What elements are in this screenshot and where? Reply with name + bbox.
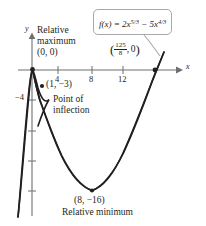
x-intercept-label: (1258,0) [110, 42, 140, 57]
inflection-point-label: (1, −3) [46, 80, 72, 90]
x-tick-label-12: 12 [118, 75, 127, 84]
intercept-fraction: 1258 [114, 42, 127, 57]
intercept-close-paren: ) [135, 42, 139, 57]
relative-maximum-point-label: (0, 0) [37, 48, 58, 58]
function-formula-callout: f(x) = 2x5/3 − 5x4/3 [93, 9, 172, 35]
inflection-label-line2: inflection [53, 106, 89, 116]
function-formula-text: f(x) = 2x5/3 − 5x4/3 [99, 19, 166, 29]
point-relative-minimum [90, 188, 94, 192]
intercept-numerator: 125 [114, 42, 127, 49]
point-x-intercept [153, 68, 158, 73]
relative-maximum-label-line2: maximum [37, 37, 76, 47]
relative-minimum-point-label: (8, −16) [74, 196, 105, 206]
point-inflection [40, 84, 44, 88]
y-axis-label: y [25, 25, 29, 33]
x-axis-label: x [186, 63, 190, 71]
inflection-label-line1: Point of [53, 95, 83, 105]
relative-minimum-label: Relative minimum [62, 208, 133, 218]
function-curve-main-branch [33, 52, 165, 191]
y-axis [29, 33, 36, 217]
point-relative-maximum [30, 67, 35, 72]
relative-maximum-label-line1: Relative [37, 26, 69, 36]
intercept-denominator: 8 [114, 49, 127, 57]
graph-figure: f(x) = 2x5/3 − 5x4/3 y x Relative maximu… [0, 0, 206, 226]
x-tick-label-8: 8 [89, 75, 93, 84]
y-tick-label-minus4: −4 [15, 93, 24, 102]
